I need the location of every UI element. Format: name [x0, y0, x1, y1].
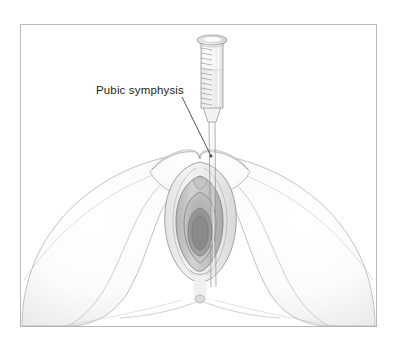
anus — [195, 295, 205, 303]
luer-cone — [203, 107, 221, 122]
medical-illustration-figure: Pubic symphysis — [0, 0, 415, 351]
label-pubic-symphysis: Pubic symphysis — [96, 85, 184, 97]
gluteal-cleft-left — [120, 302, 196, 318]
gluteal-cleft-right — [204, 302, 280, 318]
illustration-canvas — [0, 0, 415, 351]
leader-endpoint-pubic-symphysis — [210, 155, 213, 158]
plunger-flange-inner — [202, 36, 222, 42]
anatomy-group — [22, 150, 375, 326]
